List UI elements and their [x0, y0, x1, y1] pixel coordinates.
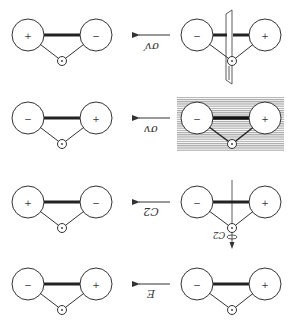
sign-left: −	[24, 280, 32, 290]
sign-left: −	[193, 198, 201, 208]
original-molecule: − + C2	[181, 180, 281, 249]
result-molecule: − +	[12, 102, 112, 149]
result-molecule: + −	[12, 186, 112, 233]
sign-left: +	[24, 198, 32, 208]
sign-left: −	[193, 114, 201, 124]
row-sigma-v: − + σv − +	[12, 97, 284, 151]
operation-label: σv	[143, 123, 158, 136]
row-identity: − + E − +	[12, 268, 281, 315]
operation-label: C2	[143, 205, 158, 218]
sign-right: −	[92, 198, 100, 208]
axis-label: C2	[212, 230, 225, 240]
original-molecule: − +	[181, 10, 281, 84]
result-molecule: − +	[12, 268, 112, 315]
sign-right: +	[261, 114, 269, 124]
sign-right: +	[261, 280, 269, 290]
result-molecule: + −	[12, 19, 112, 66]
sign-right: +	[261, 198, 269, 208]
original-molecule: − +	[181, 268, 281, 315]
original-molecule: − +	[177, 97, 284, 151]
row-sigma-v-prime: + − σv′ − +	[12, 10, 281, 84]
sign-right: +	[92, 280, 100, 290]
sign-right: +	[261, 31, 269, 41]
sign-left: +	[24, 31, 32, 41]
sign-left: −	[193, 280, 201, 290]
sign-left: −	[193, 31, 201, 41]
sign-right: −	[92, 31, 100, 41]
sign-right: +	[92, 114, 100, 124]
operation-label: E	[147, 287, 156, 300]
sign-left: −	[24, 114, 32, 124]
row-c2: + − C2 − + C2	[12, 180, 281, 249]
symmetry-diagram: + − σv′ − +	[0, 0, 291, 326]
operation-label: σv′	[142, 40, 159, 53]
